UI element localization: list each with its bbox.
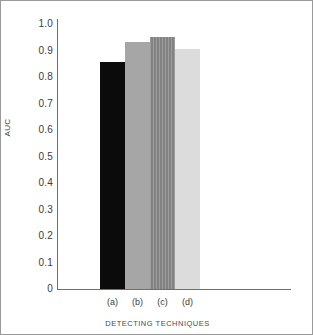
bar-d (175, 49, 200, 289)
x-tick-label-c: (c) (150, 297, 175, 307)
bar-a (100, 62, 125, 289)
y-tick-label: 0.3 (7, 205, 53, 215)
x-tick-label-d: (d) (175, 297, 200, 307)
y-tick-label: 1.0 (7, 19, 53, 29)
bar-b (125, 42, 150, 289)
y-tick-label: 0.6 (7, 125, 53, 135)
y-tick-label: 0.2 (7, 231, 53, 241)
y-tick-label: 0.5 (7, 152, 53, 162)
y-tick-label: 0 (7, 284, 53, 294)
x-axis-title: DETECTING TECHNIQUES (1, 319, 313, 328)
x-axis-line (57, 289, 291, 290)
x-tick-label-b: (b) (125, 297, 150, 307)
y-tick-label: 0.7 (7, 99, 53, 109)
bar-c (150, 37, 175, 289)
y-tick-label: 0.9 (7, 46, 53, 56)
y-tick-label: 0.1 (7, 258, 53, 268)
bar-chart-figure: AUC 1.0 0.9 0.8 0.7 0.6 0.5 0.4 0.3 0.2 … (0, 0, 313, 335)
y-axis-tick-labels: 1.0 0.9 0.8 0.7 0.6 0.5 0.4 0.3 0.2 0.1 … (1, 1, 53, 334)
x-tick-label-a: (a) (100, 297, 125, 307)
y-tick-label: 0.4 (7, 178, 53, 188)
bar-group (100, 19, 200, 289)
y-tick-label: 0.8 (7, 72, 53, 82)
plot-area (58, 19, 291, 289)
